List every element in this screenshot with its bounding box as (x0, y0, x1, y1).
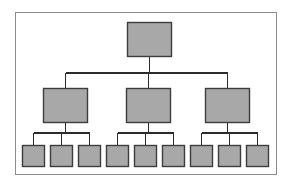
node-leaf-7[interactable] (191, 146, 213, 167)
node-leaf-1[interactable] (23, 146, 45, 167)
node-leaf-6[interactable] (163, 146, 185, 167)
diagram-canvas (0, 0, 290, 187)
node-leaf-2[interactable] (51, 146, 73, 167)
node-leaf-9[interactable] (247, 146, 269, 167)
node-leaf-8[interactable] (219, 146, 241, 167)
node-leaf-5[interactable] (135, 146, 157, 167)
node-leaf-3[interactable] (79, 146, 101, 167)
node-branch-2[interactable] (127, 89, 171, 123)
node-branch-3[interactable] (206, 89, 250, 123)
node-leaf-4[interactable] (107, 146, 129, 167)
node-root[interactable] (128, 23, 172, 57)
org-chart-diagram (0, 0, 290, 187)
node-branch-1[interactable] (44, 89, 88, 123)
